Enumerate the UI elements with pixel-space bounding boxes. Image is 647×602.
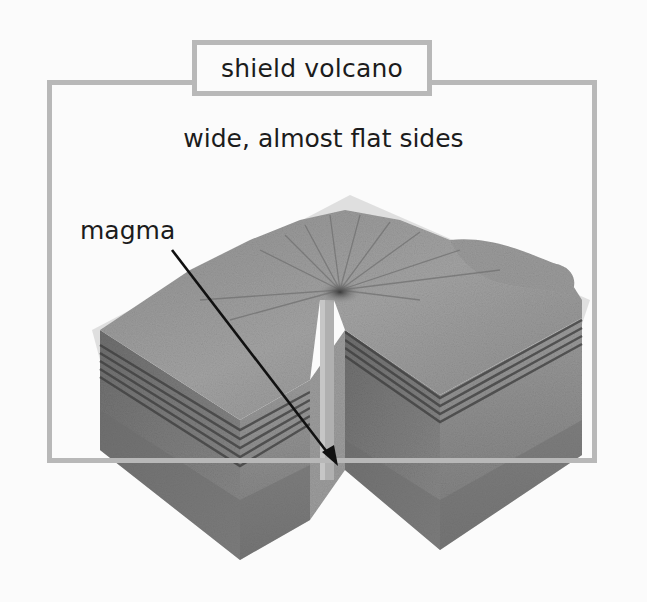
magma-arrow <box>0 0 647 602</box>
